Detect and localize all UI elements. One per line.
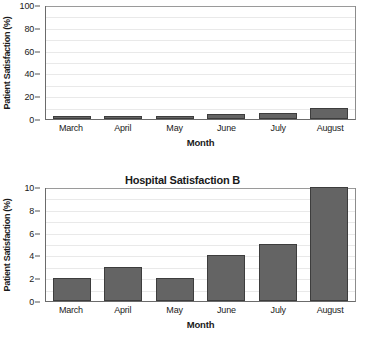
chart-b-y-axis-label-text: Patient Satisfaction (%) xyxy=(2,199,12,292)
y-tick-mark xyxy=(35,6,40,7)
chart-b-x-tick-labels: MarchAprilMayJuneJulyAugust xyxy=(45,305,356,315)
chart-a-x-tick-labels: MarchAprilMayJuneJulyAugust xyxy=(45,123,356,133)
bar-june xyxy=(207,255,245,301)
y-tick-label: 8 xyxy=(29,206,34,216)
y-tick-label: 0 xyxy=(29,297,34,307)
y-tick-label: 100 xyxy=(20,1,34,11)
y-tick-mark xyxy=(35,233,40,234)
x-tick-label: April xyxy=(99,123,147,133)
y-tick-mark xyxy=(35,210,40,211)
chart-b-y-axis-label: Patient Satisfaction (%) xyxy=(0,188,14,302)
x-tick-label: April xyxy=(99,305,147,315)
x-tick-label: March xyxy=(47,123,95,133)
bar-august xyxy=(310,108,348,119)
bar-june xyxy=(207,114,245,119)
chart-a-container: Patient Satisfaction (%) 020406080100 Ma… xyxy=(0,0,365,172)
y-tick-label: 6 xyxy=(29,229,34,239)
chart-b-plot xyxy=(45,188,356,302)
chart-a-y-tick-labels: 020406080100 xyxy=(14,6,40,120)
y-tick-label: 2 xyxy=(29,274,34,284)
chart-b-x-axis-label: Month xyxy=(45,319,356,330)
y-tick-label: 80 xyxy=(24,24,34,34)
bar-march xyxy=(53,278,91,301)
x-tick-label: August xyxy=(306,123,354,133)
y-tick-mark xyxy=(35,120,40,121)
y-tick-mark xyxy=(35,256,40,257)
bar-april xyxy=(104,267,142,301)
y-tick-label: 40 xyxy=(24,69,34,79)
bar-may xyxy=(156,116,194,119)
chart-a-y-axis-label-text: Patient Satisfaction (%) xyxy=(2,17,12,110)
bar-may xyxy=(156,278,194,301)
chart-b-bars xyxy=(46,188,355,301)
y-tick-mark xyxy=(35,51,40,52)
x-tick-label: May xyxy=(151,305,199,315)
bar-july xyxy=(259,244,297,301)
chart-a-plot-area: Patient Satisfaction (%) 020406080100 Ma… xyxy=(0,6,365,154)
chart-b-y-tick-labels: 0246810 xyxy=(14,188,40,302)
y-tick-label: 20 xyxy=(24,92,34,102)
y-tick-mark xyxy=(35,279,40,280)
bar-august xyxy=(310,187,348,301)
chart-b-container: Hospital Satisfaction B Patient Satisfac… xyxy=(0,172,365,350)
y-tick-mark xyxy=(35,302,40,303)
chart-a-plot xyxy=(45,6,356,120)
chart-b-plot-area: Patient Satisfaction (%) 0246810 MarchAp… xyxy=(0,188,365,336)
x-tick-label: June xyxy=(202,305,250,315)
y-tick-label: 60 xyxy=(24,47,34,57)
x-tick-label: March xyxy=(47,305,95,315)
chart-b-title: Hospital Satisfaction B xyxy=(0,172,365,188)
y-tick-mark xyxy=(35,188,40,189)
y-tick-mark xyxy=(35,97,40,98)
bar-april xyxy=(104,116,142,119)
x-tick-label: July xyxy=(254,123,302,133)
y-tick-label: 0 xyxy=(29,115,34,125)
y-tick-mark xyxy=(35,28,40,29)
chart-a-y-axis-label: Patient Satisfaction (%) xyxy=(0,6,14,120)
chart-a-x-axis-label: Month xyxy=(45,137,356,148)
x-tick-label: July xyxy=(254,305,302,315)
x-tick-label: June xyxy=(202,123,250,133)
x-tick-label: August xyxy=(306,305,354,315)
x-tick-label: May xyxy=(151,123,199,133)
bar-july xyxy=(259,113,297,119)
y-tick-mark xyxy=(35,74,40,75)
y-tick-label: 10 xyxy=(24,183,34,193)
chart-a-bars xyxy=(46,6,355,119)
y-tick-label: 4 xyxy=(29,251,34,261)
bar-march xyxy=(53,116,91,119)
